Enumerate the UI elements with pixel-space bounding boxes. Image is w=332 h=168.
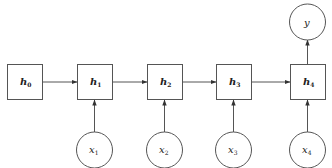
node-h4-label: h — [303, 76, 310, 87]
node-h4: h4 — [291, 65, 326, 100]
node-h3: h3 — [217, 65, 252, 100]
node-x4: x4 — [290, 132, 326, 168]
node-x1: x1 — [77, 132, 113, 168]
node-h2-label: h — [160, 76, 167, 87]
node-h0-label: h — [20, 76, 27, 87]
node-y-label: y — [303, 17, 310, 28]
rnn-diagram: h0 h1 h2 h3 h4 x1 x2 x3 x4 y — [0, 0, 332, 168]
node-h2: h2 — [148, 65, 183, 100]
node-h3-label: h — [229, 76, 236, 87]
node-y: y — [290, 4, 326, 40]
node-h0: h0 — [8, 65, 43, 100]
node-x3: x3 — [216, 132, 252, 168]
node-h1-label: h — [90, 76, 97, 87]
node-x2: x2 — [147, 132, 183, 168]
node-h1: h1 — [78, 65, 113, 100]
